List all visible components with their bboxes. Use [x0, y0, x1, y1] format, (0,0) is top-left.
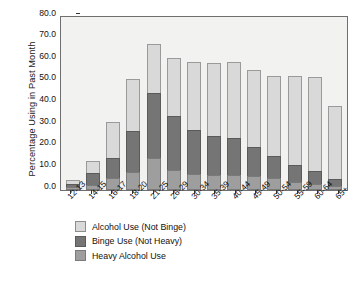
bar-segment-binge: [167, 116, 181, 170]
bar-segment-binge: [227, 138, 241, 175]
bar-segment-alcohol: [308, 77, 322, 170]
bar-column: [267, 17, 281, 190]
bar-column: [288, 17, 302, 190]
bar-segment-alcohol: [227, 62, 241, 138]
bar-column: [308, 17, 322, 190]
y-tick-label: 80.0: [39, 9, 56, 17]
legend-item: Heavy Alcohol Use: [75, 250, 186, 261]
bar-column: [328, 17, 342, 190]
plot-inner: [61, 17, 347, 190]
bar-segment-binge: [288, 165, 302, 181]
bar-segment-binge: [247, 147, 261, 176]
plot-area: [60, 16, 348, 191]
legend-swatch-heavy: [75, 250, 86, 261]
legend-label: Alcohol Use (Not Binge): [92, 222, 186, 232]
bar-segment-binge: [187, 130, 201, 174]
bar-segment-alcohol: [328, 106, 342, 179]
bar-column: [227, 17, 241, 190]
bar-segment-binge: [106, 158, 120, 178]
y-tick-mark: [76, 13, 80, 14]
bar-segment-alcohol: [267, 76, 281, 155]
bar-column: [106, 17, 120, 190]
y-tick-label: 0.0: [44, 182, 56, 190]
y-tick-label: 20.0: [39, 138, 56, 146]
bar-segment-binge: [147, 93, 161, 158]
bar-column: [187, 17, 201, 190]
legend-label: Heavy Alcohol Use: [92, 251, 166, 261]
legend-label: Binge Use (Not Heavy): [92, 236, 182, 246]
chart-figure: Percentage Using in Past Month 80.070.06…: [0, 0, 360, 283]
bar-segment-alcohol: [167, 58, 181, 116]
bar-column: [126, 17, 140, 190]
legend-item: Alcohol Use (Not Binge): [75, 221, 186, 232]
y-axis-tick-labels: 80.070.060.050.040.030.020.010.00.0: [20, 12, 56, 196]
bar-column: [86, 17, 100, 190]
bar-segment-alcohol: [207, 63, 221, 136]
bar-column: [167, 17, 181, 190]
bar-column: [66, 17, 80, 190]
bar-column: [147, 17, 161, 190]
bar-segment-binge: [267, 156, 281, 179]
bar-group: [61, 17, 347, 190]
y-tick-label: 70.0: [39, 30, 56, 38]
bar-segment-alcohol: [147, 44, 161, 93]
bar-segment-alcohol: [86, 161, 100, 174]
y-tick-label: 50.0: [39, 73, 56, 81]
legend-item: Binge Use (Not Heavy): [75, 236, 186, 247]
chart-legend: Alcohol Use (Not Binge)Binge Use (Not He…: [75, 221, 186, 261]
bar-segment-alcohol: [288, 76, 302, 165]
bar-segment-alcohol: [106, 122, 120, 159]
y-tick-label: 60.0: [39, 52, 56, 60]
bar-segment-alcohol: [126, 79, 140, 131]
y-tick-label: 10.0: [39, 160, 56, 168]
y-tick-label: 40.0: [39, 95, 56, 103]
bar-segment-binge: [207, 136, 221, 176]
legend-swatch-alcohol: [75, 221, 86, 232]
y-tick-label: 30.0: [39, 117, 56, 125]
bar-segment-alcohol: [247, 70, 261, 148]
bar-column: [247, 17, 261, 190]
bar-segment-binge: [126, 131, 140, 172]
legend-swatch-binge: [75, 236, 86, 247]
bar-column: [207, 17, 221, 190]
bar-segment-alcohol: [187, 62, 201, 131]
